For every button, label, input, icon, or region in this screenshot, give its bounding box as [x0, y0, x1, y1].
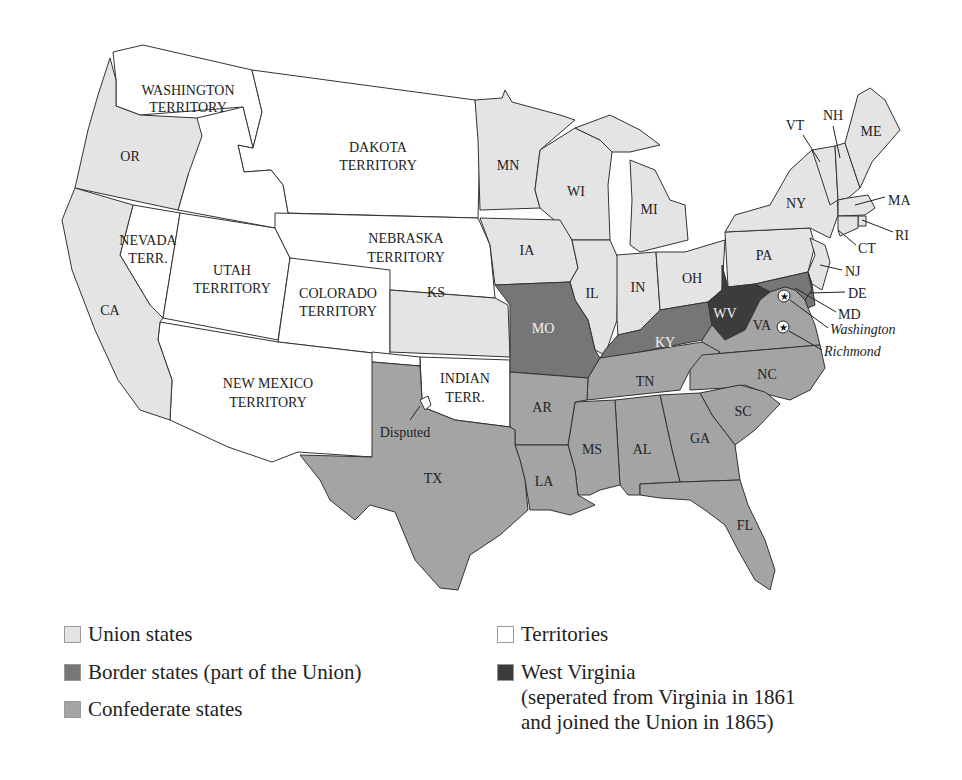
label-washington-city: Washington: [830, 322, 896, 337]
label-va: VA: [753, 318, 772, 333]
legend-label: Border states (part of the Union): [88, 660, 362, 685]
label-richmond-city: Richmond: [823, 344, 882, 359]
legend-item-border: Border states (part of the Union): [64, 660, 362, 685]
legend-swatch-union: [64, 626, 81, 643]
legend-swatch-border: [64, 664, 81, 681]
label-me: ME: [861, 124, 882, 139]
label-il: IL: [585, 286, 598, 301]
label-nh: NH: [823, 108, 843, 123]
label-tn: TN: [636, 374, 655, 389]
legend-swatch-confederate: [64, 701, 81, 718]
legend-label: Confederate states: [88, 697, 243, 722]
label-la: LA: [535, 474, 555, 489]
label-mi: MI: [640, 202, 657, 217]
label-ct: CT: [858, 241, 876, 256]
label-ri: RI: [895, 228, 909, 243]
label-ca: CA: [100, 303, 120, 318]
label-mn: MN: [497, 158, 520, 173]
label-wi: WI: [567, 184, 585, 199]
label-mo: MO: [532, 321, 555, 336]
legend-swatch-territory: [497, 626, 514, 643]
label-pa: PA: [756, 248, 774, 263]
label-md: MD: [838, 307, 861, 322]
label-ga: GA: [690, 431, 711, 446]
label-disputed: Disputed: [380, 425, 431, 440]
state-ks: [390, 290, 510, 357]
label-ny: NY: [786, 196, 806, 211]
legend-item-confederate: Confederate states: [64, 697, 243, 722]
label-ia: IA: [520, 243, 536, 258]
label-or: OR: [120, 149, 140, 164]
star-icon: ★: [779, 322, 788, 333]
legend-label: West Virginia (seperated from Virginia i…: [521, 660, 795, 735]
label-ar: AR: [532, 400, 552, 415]
label-wv: WV: [713, 306, 736, 321]
civil-war-map: WASHINGTONTERRITORY DAKOTATERRITORY NEVA…: [0, 0, 962, 600]
label-nc: NC: [757, 367, 776, 382]
label-ms: MS: [582, 442, 602, 457]
legend-label: Territories: [521, 622, 608, 647]
state-fl: [640, 480, 775, 590]
legend-label: Union states: [88, 622, 192, 647]
legend-item-territories: Territories: [497, 622, 608, 647]
label-sc: SC: [734, 404, 751, 419]
label-fl: FL: [737, 518, 753, 533]
star-icon: ★: [780, 291, 789, 302]
label-de: DE: [848, 286, 867, 301]
label-nj: NJ: [845, 264, 861, 279]
legend-item-west-virginia: West Virginia (seperated from Virginia i…: [497, 660, 795, 735]
map-legend: Union states Border states (part of the …: [0, 600, 962, 780]
label-vt: VT: [786, 118, 805, 133]
label-ks: KS: [427, 285, 445, 300]
label-al: AL: [633, 442, 652, 457]
legend-swatch-west-virginia: [497, 664, 514, 681]
label-in: IN: [631, 280, 646, 295]
label-ma: MA: [888, 193, 911, 208]
legend-item-union: Union states: [64, 622, 192, 647]
label-oh: OH: [682, 271, 702, 286]
label-ky: KY: [655, 335, 675, 350]
label-tx: TX: [424, 471, 443, 486]
